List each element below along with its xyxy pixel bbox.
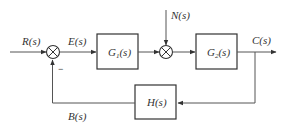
feedback-label-B: B(s) bbox=[68, 110, 87, 123]
minus-sign: − bbox=[58, 64, 63, 74]
block-G1-label: G1(s) bbox=[108, 46, 131, 60]
output-label-C: C(s) bbox=[252, 34, 271, 47]
block-H-label: H(s) bbox=[146, 96, 167, 109]
error-label-E: E(s) bbox=[67, 35, 87, 48]
block-diagram: R(s) − E(s) G1(s) N(s) G2(s) C(s) H(s) B… bbox=[0, 0, 281, 132]
summing-junction-1 bbox=[47, 46, 60, 59]
input-label-R: R(s) bbox=[21, 35, 41, 48]
summing-junction-2 bbox=[160, 46, 173, 59]
block-G2-label: G2(s) bbox=[207, 46, 230, 60]
disturbance-label-N: N(s) bbox=[170, 9, 190, 22]
